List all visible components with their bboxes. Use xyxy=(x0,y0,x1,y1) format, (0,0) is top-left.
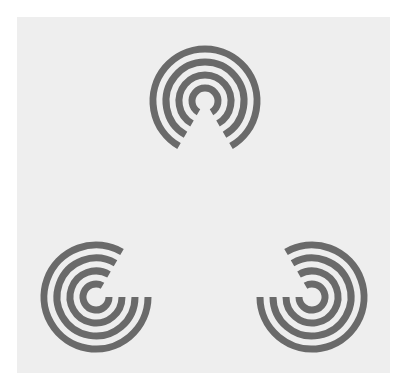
inducer-bottom-left xyxy=(44,245,148,349)
ring-arc xyxy=(83,284,109,310)
inducer-top xyxy=(153,49,257,146)
kanizsa-figure xyxy=(0,0,405,391)
ring-arc xyxy=(286,271,338,323)
ring-arc xyxy=(192,88,218,112)
ring-arc xyxy=(179,75,231,124)
inducer-bottom-right xyxy=(260,245,364,349)
ring-arc xyxy=(299,284,325,310)
ring-arc xyxy=(70,271,122,323)
